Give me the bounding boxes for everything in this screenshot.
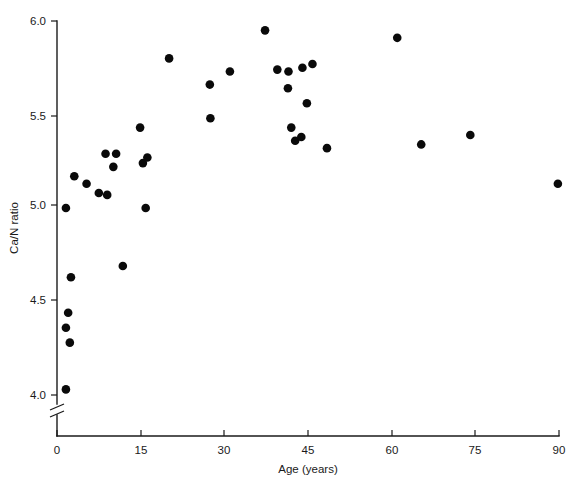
data-point [303,99,312,108]
data-point [284,84,293,93]
data-point [109,163,118,172]
x-tick-label-30: 30 [218,444,231,456]
x-tick-label-60: 60 [386,444,399,456]
y-tick-label-4-5: 4.5 [30,294,46,306]
data-point [103,191,112,200]
data-point [466,131,475,140]
data-point [119,262,128,271]
data-point [308,60,317,69]
data-point-layer [62,26,563,394]
y-tick-marks [51,21,57,395]
scatter-plot-canvas: 6.0 5.5 5.0 4.5 4.0 0 15 30 45 60 75 90 … [0,0,583,488]
y-tick-label-5-0: 5.0 [30,199,46,211]
data-point [284,67,293,76]
data-point [393,34,402,43]
x-tick-label-15: 15 [135,444,148,456]
data-point [323,144,332,153]
data-point [273,65,282,74]
data-point [136,123,145,132]
scatter-chart-figure: 6.0 5.5 5.0 4.5 4.0 0 15 30 45 60 75 90 … [0,0,583,488]
data-point [206,80,215,89]
data-point [297,133,306,142]
y-tick-label-4-0: 4.0 [30,389,46,401]
data-point [143,153,152,162]
x-tick-label-45: 45 [302,444,315,456]
y-axis-title: Ca/N ratio [8,202,20,254]
data-point [417,140,426,149]
data-point [64,308,73,317]
data-point [82,179,91,188]
y-tick-label-5-5: 5.5 [30,110,46,122]
data-point [70,172,79,181]
y-tick-label-6-0: 6.0 [30,15,46,27]
data-point [62,323,71,332]
data-point [226,67,235,76]
x-tick-label-75: 75 [469,444,482,456]
data-point [62,385,71,394]
x-tick-label-0: 0 [54,444,60,456]
data-point [554,179,563,188]
data-point [141,204,150,213]
data-point [261,26,270,35]
data-point [287,123,296,132]
x-tick-marks [57,430,559,436]
data-point [95,189,104,198]
x-axis-title: Age (years) [278,463,338,475]
data-point [101,149,110,158]
data-point [66,338,75,347]
data-point [112,149,121,158]
data-point [165,54,174,63]
data-point [67,273,76,282]
data-point [62,204,71,213]
data-point [206,114,215,123]
x-tick-label-90: 90 [553,444,566,456]
data-point [298,63,307,72]
